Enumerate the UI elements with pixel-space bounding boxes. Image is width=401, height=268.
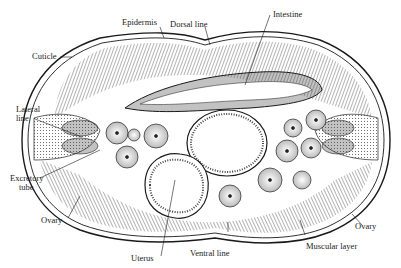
lateral-line-left <box>34 114 100 160</box>
label-lateral-line-2: line <box>16 113 29 123</box>
label-uterus: Uterus <box>131 254 154 263</box>
label-ventral-line: Ventral line <box>190 249 229 258</box>
cross-section-illustration <box>0 0 401 268</box>
label-dorsal-line: Dorsal line <box>170 20 208 29</box>
label-ovary-right: Ovary <box>355 222 376 231</box>
label-lateral-line: Lateral line <box>16 105 40 123</box>
label-muscular-layer: Muscular layer <box>306 242 357 251</box>
label-cuticle: Cuticle <box>32 52 57 61</box>
diagram-figure: Epidermis Dorsal line Intestine Cuticle … <box>0 0 401 268</box>
label-excretory-tube: Excretory tube <box>10 174 44 192</box>
label-intestine: Intestine <box>273 10 302 19</box>
label-excretory-tube-2: tube <box>10 182 34 192</box>
label-epidermis: Epidermis <box>122 18 157 27</box>
uterus-lower <box>145 154 208 219</box>
intestine <box>125 72 322 112</box>
label-ovary-left: Ovary <box>41 216 62 225</box>
